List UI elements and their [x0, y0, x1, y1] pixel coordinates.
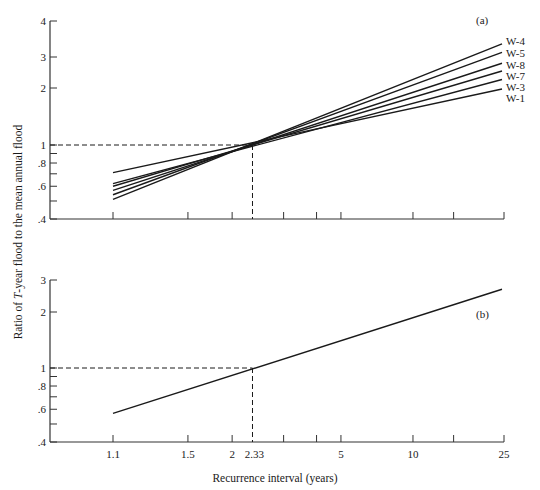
flood-frequency-figure: 4321.8.6.4W-4W-5W-8W-7W-3W-1 321.8.6.41.…	[0, 0, 540, 490]
x-axis-title: Recurrence interval (years)	[212, 472, 337, 485]
panel-b-label: (b)	[476, 308, 489, 321]
series-line-w-1	[113, 89, 502, 173]
y-tick-label: .4	[38, 436, 47, 448]
series-label: W-5	[506, 47, 525, 59]
x-tick-label: 25	[499, 448, 511, 460]
y-tick-label: .6	[38, 403, 47, 415]
series-line-regional-curve	[113, 289, 502, 413]
panel-a-label: (a)	[476, 14, 489, 27]
x-tick-label: 1.1	[106, 448, 120, 460]
x-tick-label: 2	[229, 448, 235, 460]
series-label: W-1	[506, 92, 525, 104]
y-tick-label: 3	[41, 51, 47, 63]
series-line-w-5	[113, 52, 502, 194]
series-label: W-4	[506, 35, 525, 47]
series-line-w-4	[113, 44, 502, 200]
series-line-w-7	[113, 71, 502, 186]
x-tick-label: 10	[407, 448, 419, 460]
x-tick-label: 5	[338, 448, 344, 460]
series-line-w-8	[113, 63, 502, 190]
y-tick-label: .8	[38, 380, 47, 392]
y-tick-label: 2	[41, 306, 47, 318]
series-line-w-3	[113, 79, 502, 183]
y-tick-label: .8	[38, 157, 47, 169]
x-tick-label: 1.5	[181, 448, 195, 460]
y-tick-label: .4	[38, 213, 47, 225]
y-tick-label: 1	[41, 362, 47, 374]
panel-b-chart: 321.8.6.41.11.52510252.33	[38, 274, 510, 460]
y-tick-label: 2	[41, 82, 47, 94]
x-tick-label: 2.33	[245, 448, 265, 460]
y-tick-label: .6	[38, 180, 47, 192]
panel-a-chart: 4321.8.6.4W-4W-5W-8W-7W-3W-1	[38, 15, 526, 225]
y-axis-title: Ratio of T-year flood to the mean annual…	[12, 124, 25, 339]
y-tick-label: 4	[41, 15, 47, 27]
y-tick-label: 3	[41, 274, 47, 286]
y-tick-label: 1	[41, 139, 47, 151]
